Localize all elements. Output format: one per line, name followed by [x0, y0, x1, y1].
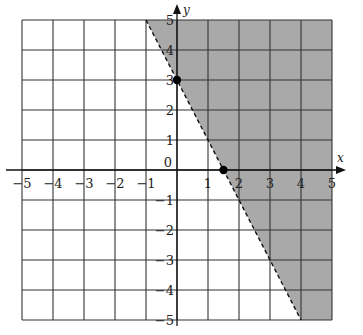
y-tick-label: 1	[166, 133, 174, 148]
y-tick-label: −5	[155, 313, 174, 328]
origin-label: 0	[164, 155, 172, 170]
x-tick-label: −4	[43, 176, 62, 191]
x-tick-label: −1	[136, 176, 155, 191]
x-tick-label: 5	[328, 176, 336, 191]
intercept-point	[219, 166, 227, 174]
y-tick-label: 4	[166, 43, 174, 58]
y-tick-label: 2	[166, 103, 174, 118]
x-tick-label: 4	[297, 176, 305, 191]
y-tick-label: −2	[155, 223, 174, 238]
coordinate-plane: xy −5−4−3−2−11234554321−1−2−3−4−50	[0, 0, 363, 335]
x-tick-label: 2	[235, 176, 243, 191]
x-axis-arrow-icon	[336, 166, 346, 174]
intercept-point	[173, 76, 181, 84]
x-axis-label: x	[337, 151, 344, 165]
x-tick-label: −2	[105, 176, 124, 191]
y-axis-arrow-icon	[173, 4, 181, 14]
y-tick-label: −4	[155, 283, 174, 298]
y-tick-label: 5	[166, 13, 174, 28]
y-axis-label: y	[182, 3, 190, 17]
y-tick-label: −1	[155, 193, 174, 208]
x-tick-label: −3	[74, 176, 93, 191]
x-tick-label: −5	[12, 176, 31, 191]
x-tick-label: 3	[266, 176, 274, 191]
x-tick-label: 1	[204, 176, 212, 191]
y-tick-label: −3	[155, 253, 174, 268]
y-tick-label: 3	[166, 73, 174, 88]
